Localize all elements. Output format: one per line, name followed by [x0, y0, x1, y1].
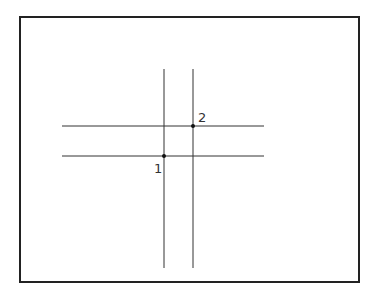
point-2-label: 2 — [198, 110, 206, 125]
point-1-label: 1 — [154, 161, 162, 176]
diagram-canvas: 1 2 — [0, 0, 376, 299]
point-1-marker — [162, 154, 166, 158]
frame-border — [20, 17, 359, 282]
point-2-marker — [191, 124, 195, 128]
